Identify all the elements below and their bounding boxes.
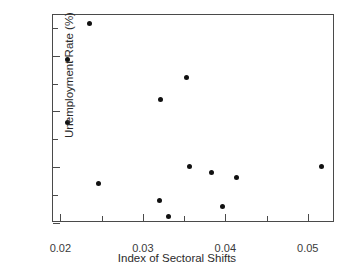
scatter-plot-figure: 1234 0.020.030.040.05 Unemployment Rate … <box>0 0 354 278</box>
data-point <box>158 97 163 102</box>
x-axis-minor-tick <box>267 216 268 221</box>
x-axis-minor-tick <box>184 216 185 221</box>
x-axis-title: Index of Sectoral Shifts <box>0 252 354 264</box>
data-point <box>220 204 225 209</box>
data-point <box>184 75 189 80</box>
x-axis-tick <box>60 214 61 221</box>
y-axis-minor-tick <box>53 139 58 140</box>
data-points-layer <box>53 15 333 221</box>
data-point <box>187 164 192 169</box>
x-axis-minor-tick <box>102 216 103 221</box>
y-axis-minor-tick <box>53 28 58 29</box>
data-point <box>166 214 171 219</box>
y-axis-tick <box>53 223 60 224</box>
y-axis-minor-tick <box>53 195 58 196</box>
data-point <box>157 198 162 203</box>
y-axis-title: Unemployment Rate (%) <box>63 0 75 155</box>
data-point <box>234 175 239 180</box>
y-axis-minor-tick <box>53 84 58 85</box>
plot-area-frame: 1234 0.020.030.040.05 Unemployment Rate … <box>52 14 334 222</box>
data-point <box>87 21 92 26</box>
y-axis-tick <box>53 111 60 112</box>
x-axis-tick <box>143 214 144 221</box>
x-axis-tick <box>308 214 309 221</box>
data-point <box>209 170 214 175</box>
data-point <box>96 181 101 186</box>
y-axis-tick <box>53 167 60 168</box>
x-axis-tick <box>225 214 226 221</box>
data-point <box>319 164 324 169</box>
y-axis-tick <box>53 56 60 57</box>
